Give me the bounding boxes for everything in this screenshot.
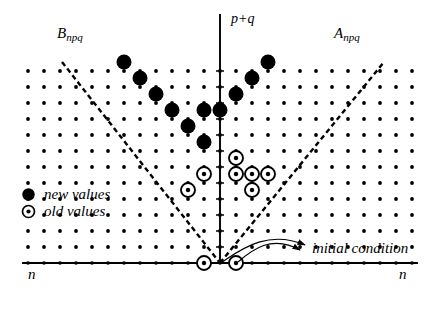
lattice-dot xyxy=(266,133,270,137)
new-value-marker xyxy=(197,103,212,118)
new-value-marker xyxy=(149,87,164,102)
lattice-dot xyxy=(42,245,46,249)
lattice-dot xyxy=(282,213,286,217)
lattice-dot xyxy=(58,165,62,169)
region-label-a-sub: npq xyxy=(343,31,360,43)
axis-label-horizontal-right: n xyxy=(399,267,407,282)
lattice-dot xyxy=(154,133,158,137)
old-value-center xyxy=(202,172,206,176)
lattice-dot xyxy=(330,197,334,201)
region-boundary-lines xyxy=(62,62,384,263)
axis-tick-horizontal xyxy=(122,261,126,265)
filled-dot-icon xyxy=(20,186,37,203)
region-label-b: Bnpq xyxy=(57,26,83,43)
lattice-dot xyxy=(298,165,302,169)
lattice-dot xyxy=(410,133,414,137)
lattice-dot xyxy=(122,149,126,153)
old-value-center xyxy=(186,188,190,192)
lattice-dot xyxy=(122,213,126,217)
lattice-dot xyxy=(394,213,398,217)
axis-tick-horizontal xyxy=(138,261,142,265)
region-label-a-base: A xyxy=(334,25,343,41)
lattice-dot xyxy=(26,229,30,233)
lattice-dot xyxy=(298,213,302,217)
lattice-dot xyxy=(378,229,382,233)
lattice-dot xyxy=(90,229,94,233)
lattice-dot xyxy=(90,69,94,73)
lattice-dot xyxy=(106,85,110,89)
axis-tick-horizontal xyxy=(42,261,46,265)
lattice-dot xyxy=(298,245,302,249)
lattice-dot xyxy=(26,165,30,169)
lattice-dot xyxy=(362,197,366,201)
legend-label-old-values: old values xyxy=(44,203,105,220)
new-value-marker xyxy=(117,55,132,70)
lattice-dot xyxy=(154,197,158,201)
lattice-dot xyxy=(282,149,286,153)
lattice-dot xyxy=(234,213,238,217)
lattice-dot xyxy=(202,149,206,153)
lattice-dot xyxy=(122,69,126,73)
legend-item-new-values: new values xyxy=(20,186,110,203)
legend-label-new-values: new values xyxy=(44,186,110,203)
annotation-initial-condition: initial condition xyxy=(312,241,408,256)
lattice-dot xyxy=(394,69,398,73)
lattice-dot xyxy=(186,133,190,137)
lattice-dot xyxy=(74,181,78,185)
old-value-center xyxy=(234,261,238,265)
legend-item-old-values: old values xyxy=(20,203,105,220)
lattice-dot xyxy=(26,101,30,105)
lattice-dot xyxy=(362,229,366,233)
axis-tick-horizontal xyxy=(346,261,350,265)
lattice-dot xyxy=(90,85,94,89)
lattice-dot xyxy=(298,101,302,105)
lattice-dot xyxy=(186,101,190,105)
lattice-dot xyxy=(138,117,142,121)
lattice-dot xyxy=(330,181,334,185)
lattice-dot xyxy=(266,245,270,249)
axis-tick-horizontal xyxy=(58,261,62,265)
lattice-dot xyxy=(186,149,190,153)
lattice-dot xyxy=(138,149,142,153)
lattice-dot xyxy=(410,165,414,169)
lattice-dot xyxy=(298,181,302,185)
axis-tick-horizontal xyxy=(298,261,302,265)
lattice-dot xyxy=(346,181,350,185)
lattice-dot xyxy=(122,197,126,201)
lattice-dot xyxy=(138,213,142,217)
lattice-dot xyxy=(170,245,174,249)
lattice-dot xyxy=(122,85,126,89)
lattice-dot xyxy=(202,117,206,121)
right-dashed-ray xyxy=(220,62,384,263)
lattice-dot xyxy=(186,69,190,73)
lattice-dot xyxy=(298,149,302,153)
lattice-dot xyxy=(394,197,398,201)
axis-tick-horizontal xyxy=(410,261,414,265)
lattice-dot xyxy=(122,229,126,233)
lattice-dot xyxy=(74,85,78,89)
lattice-dot xyxy=(298,229,302,233)
lattice-dot xyxy=(202,197,206,201)
lattice-dot xyxy=(394,149,398,153)
lattice-dot xyxy=(410,181,414,185)
lattice-dot xyxy=(394,101,398,105)
lattice-dot xyxy=(410,197,414,201)
lattice-dot xyxy=(74,229,78,233)
lattice-dot xyxy=(362,69,366,73)
old-value-center xyxy=(250,188,254,192)
lattice-dot xyxy=(250,213,254,217)
axis-tick-horizontal xyxy=(314,261,318,265)
lattice-dot xyxy=(314,181,318,185)
axis-tick-horizontal xyxy=(106,261,110,265)
lattice-dot xyxy=(106,181,110,185)
lattice-dot xyxy=(42,117,46,121)
lattice-dot xyxy=(42,85,46,89)
lattice-dot xyxy=(234,197,238,201)
lattice-dot xyxy=(234,229,238,233)
lattice-dot xyxy=(74,117,78,121)
lattice-dot xyxy=(74,245,78,249)
lattice-dot xyxy=(330,69,334,73)
axis-tick-horizontal xyxy=(74,261,78,265)
lattice-dot xyxy=(346,149,350,153)
lattice-dot xyxy=(378,181,382,185)
